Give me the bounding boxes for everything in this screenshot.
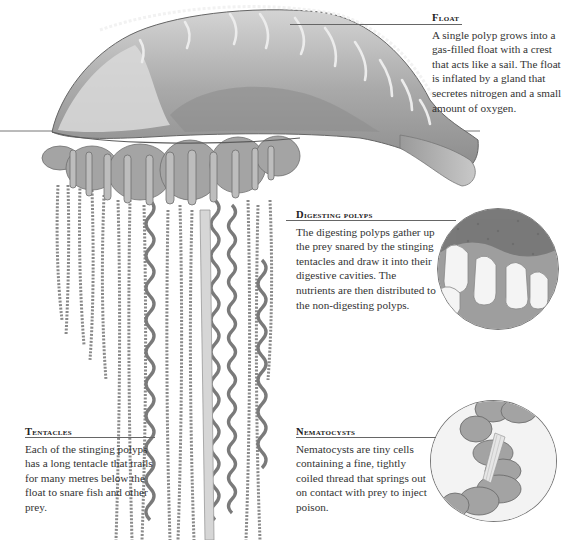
digesting-polyps-title: Digesting polyps	[296, 208, 436, 223]
digesting-polyps-detail-illustration	[438, 209, 558, 329]
tentacles-annotation: Tentacles Each of the stinging polyps ha…	[25, 425, 153, 515]
nematocysts-title: Nematocysts	[296, 425, 432, 440]
nematocysts-annotation: Nematocysts Nematocysts are tiny cells c…	[296, 425, 432, 515]
nematocysts-description: Nematocysts are tiny cells containing a …	[296, 442, 432, 515]
nematocysts-detail-illustration	[431, 401, 556, 521]
digesting-polyps-detail-circle	[437, 208, 559, 330]
float-title: Float	[432, 11, 563, 26]
tentacles-description: Each of the stinging polyps has a long t…	[25, 442, 153, 515]
float-description: A single polyp grows into a gas-filled f…	[432, 28, 563, 116]
polyp-cluster	[42, 136, 300, 205]
digesting-polyps-description: The digesting polyps gather up the prey …	[296, 225, 436, 313]
digesting-polyps-annotation: Digesting polyps The digesting polyps ga…	[296, 208, 436, 312]
float-annotation: Float A single polyp grows into a gas-fi…	[432, 11, 563, 115]
tentacles-title: Tentacles	[25, 425, 153, 440]
nematocysts-detail-circle	[430, 400, 557, 522]
